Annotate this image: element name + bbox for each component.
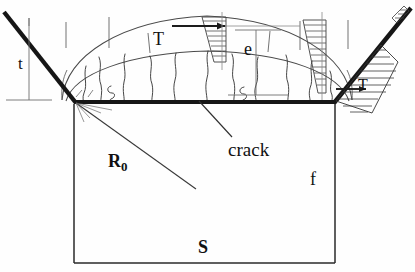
label-crack: crack <box>228 140 269 159</box>
label-slab-S: S <box>198 238 208 256</box>
label-radius-R0: R0 <box>108 152 127 174</box>
crack-line <box>309 61 312 103</box>
corner-tick <box>76 90 82 97</box>
upper-crack-trace <box>268 31 270 52</box>
crack-leader-line <box>199 101 232 137</box>
dimension-t <box>6 18 52 100</box>
radius-annotation <box>76 103 196 189</box>
upper-crack-trace <box>148 33 150 53</box>
gradient-wedge-right <box>303 12 326 100</box>
label-temperature-top: T <box>153 30 164 48</box>
label-thickness-t: t <box>18 55 23 72</box>
dimension-e <box>228 30 288 95</box>
gradient-wedge-top-arrowhead <box>217 23 225 30</box>
crack-line <box>123 54 125 103</box>
label-temperature-right: T <box>358 77 368 93</box>
crack-line <box>174 53 176 103</box>
label-radius-subscript: 0 <box>121 159 127 174</box>
crack-line <box>206 51 208 103</box>
crack-line <box>99 57 102 103</box>
crack-line <box>83 66 86 103</box>
diagram-vector-layer <box>0 0 415 272</box>
crack-leader <box>199 101 232 137</box>
crack-lines <box>83 51 332 103</box>
crack-line <box>232 54 235 103</box>
left-inclined-wall <box>4 12 76 103</box>
crack-line <box>286 55 289 103</box>
radius-line <box>76 103 196 189</box>
label-embedment-e: e <box>244 40 252 58</box>
crack-line <box>150 56 153 103</box>
gradient-wedge-top <box>172 12 300 70</box>
crack-line <box>330 71 332 103</box>
label-radius-letter: R <box>108 151 121 171</box>
diagram-canvas: t T e T crack R0 f S <box>0 0 415 272</box>
corner-tick <box>88 90 93 97</box>
gradient-wedge-right-hatching <box>304 25 326 85</box>
label-face-f: f <box>310 170 316 188</box>
